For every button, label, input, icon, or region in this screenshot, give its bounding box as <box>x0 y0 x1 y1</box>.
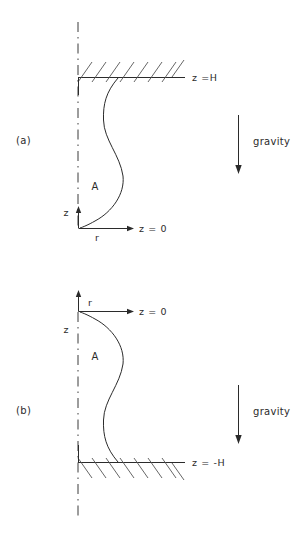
gravity-arrow-a <box>235 115 241 174</box>
boundary-label-b: z = -H <box>192 457 225 468</box>
panel-label-a: (a) <box>16 135 31 146</box>
figure-canvas: (a) z =H A z r z = 0 gravity <box>0 0 301 540</box>
axis-r-b <box>79 309 135 314</box>
panel-label-b: (b) <box>16 405 31 416</box>
gravity-arrow-b <box>235 385 241 444</box>
hatch-group-b <box>78 458 184 480</box>
panel-b: (b) r z = 0 z A z = -H gravity <box>16 290 290 518</box>
panel-a: (a) z =H A z r z = 0 gravity <box>16 22 290 243</box>
axis-r-label-a: r <box>95 232 99 243</box>
region-label-a: A <box>92 181 99 192</box>
axis-z-label-b: z <box>64 324 69 335</box>
boundary-label-a: z =H <box>192 72 218 83</box>
gravity-label-b: gravity <box>253 406 290 417</box>
datum-label-b: z = 0 <box>139 306 167 317</box>
hatch-group-a <box>78 60 184 82</box>
axis-z-label-a: z <box>64 207 69 218</box>
axis-z-b <box>76 290 81 312</box>
region-label-b: A <box>92 351 99 362</box>
interface-curve-b <box>80 312 123 462</box>
axis-r-label-b: r <box>88 297 92 308</box>
gravity-label-a: gravity <box>253 136 290 147</box>
interface-curve-a <box>80 78 123 228</box>
figure-root: (a) z =H A z r z = 0 gravity <box>0 0 301 540</box>
axis-r-a <box>79 226 135 231</box>
axis-z-a <box>76 206 81 228</box>
datum-label-a: z = 0 <box>139 223 167 234</box>
